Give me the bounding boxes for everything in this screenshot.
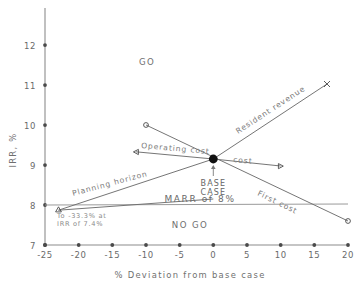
y-tick-labels: 12 11 10 9 8 7 — [24, 41, 36, 251]
annotation-line2: IRR of 7.4% — [57, 220, 103, 228]
base-case-arrow-icon — [211, 165, 216, 169]
x-tick-label: -5 — [175, 250, 185, 260]
x-tick-label: 5 — [244, 250, 250, 260]
first-cost-line — [146, 125, 348, 221]
x-tick-label: -20 — [71, 250, 87, 260]
y-tick-label: 7 — [30, 241, 36, 251]
series-first-cost — [144, 123, 351, 224]
y-tick-label: 10 — [24, 121, 36, 131]
series-label-operating-cost-suffix: cost — [233, 155, 253, 166]
y-tick-label: 8 — [30, 201, 36, 211]
y-tick-label: 11 — [24, 81, 36, 91]
y-axis-title: IRR, % — [8, 132, 18, 167]
x-tick-label: -25 — [37, 250, 53, 260]
resident-revenue-line — [213, 84, 327, 159]
x-axis-title: % Deviation from base case — [114, 270, 265, 280]
series-label-resident-revenue: Resident revenue — [234, 84, 307, 136]
series-label-operating-cost: Operating cost — [141, 141, 210, 156]
region-label-go: GO — [139, 57, 155, 67]
axes — [45, 8, 348, 245]
x-tick-label: 20 — [342, 250, 354, 260]
base-case-point — [209, 155, 218, 164]
series-label-first-cost: First cost — [256, 189, 299, 216]
x-tick-label: 10 — [275, 250, 287, 260]
base-case-label-line1: BASE — [201, 179, 227, 188]
series-resident-revenue — [213, 81, 330, 159]
x-tick-label: -10 — [138, 250, 154, 260]
x-tick-label: -15 — [104, 250, 120, 260]
y-tick-label: 9 — [30, 161, 36, 171]
sensitivity-spider-chart: 12 11 10 9 8 7 -25 -20 -15 -10 -5 0 5 10… — [0, 0, 354, 287]
annotation-line1: To -33.3% at — [56, 212, 106, 220]
region-label-no-go: NO GO — [172, 220, 208, 230]
chart-container: 12 11 10 9 8 7 -25 -20 -15 -10 -5 0 5 10… — [0, 0, 354, 287]
x-marker — [324, 81, 330, 87]
marr-threshold-line — [45, 204, 348, 205]
x-tick-label: 15 — [308, 250, 320, 260]
y-tick-label: 12 — [24, 41, 36, 51]
x-tick-label: 0 — [210, 250, 216, 260]
marr-label: MARR of 8% — [164, 194, 235, 204]
x-tick-labels: -25 -20 -15 -10 -5 0 5 10 15 20 — [37, 250, 354, 260]
